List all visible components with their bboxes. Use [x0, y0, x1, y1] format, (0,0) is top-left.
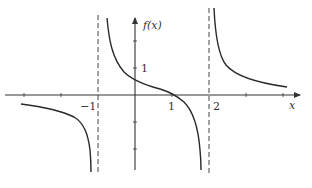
tick-label-x-1: 1	[168, 100, 175, 113]
tick-label-x-neg1: −1	[80, 100, 96, 113]
curve-right-branch	[214, 8, 287, 87]
tick-label-y-1: 1	[141, 62, 148, 75]
x-axis-label: x	[289, 99, 296, 112]
curve-left-branch	[21, 104, 91, 172]
function-label: f(x)	[142, 19, 162, 32]
tick-label-x-2: 2	[213, 100, 220, 113]
curve-middle-branch	[107, 18, 201, 170]
function-graph: f(x) x −1 1 2 1	[0, 0, 312, 188]
